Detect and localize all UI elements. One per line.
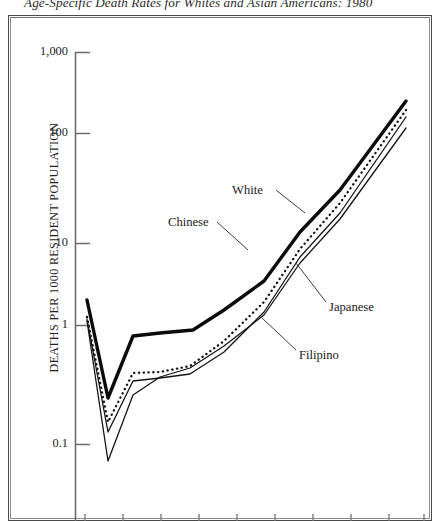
- x-axis-ticks: [85, 514, 424, 521]
- series-line-chinese: [87, 110, 406, 422]
- y-axis-ticks: [75, 53, 90, 445]
- figure-container: Age-Specific Death Rates for Whites and …: [0, 0, 442, 521]
- series-line-white: [87, 101, 406, 398]
- plot-area: [0, 0, 442, 521]
